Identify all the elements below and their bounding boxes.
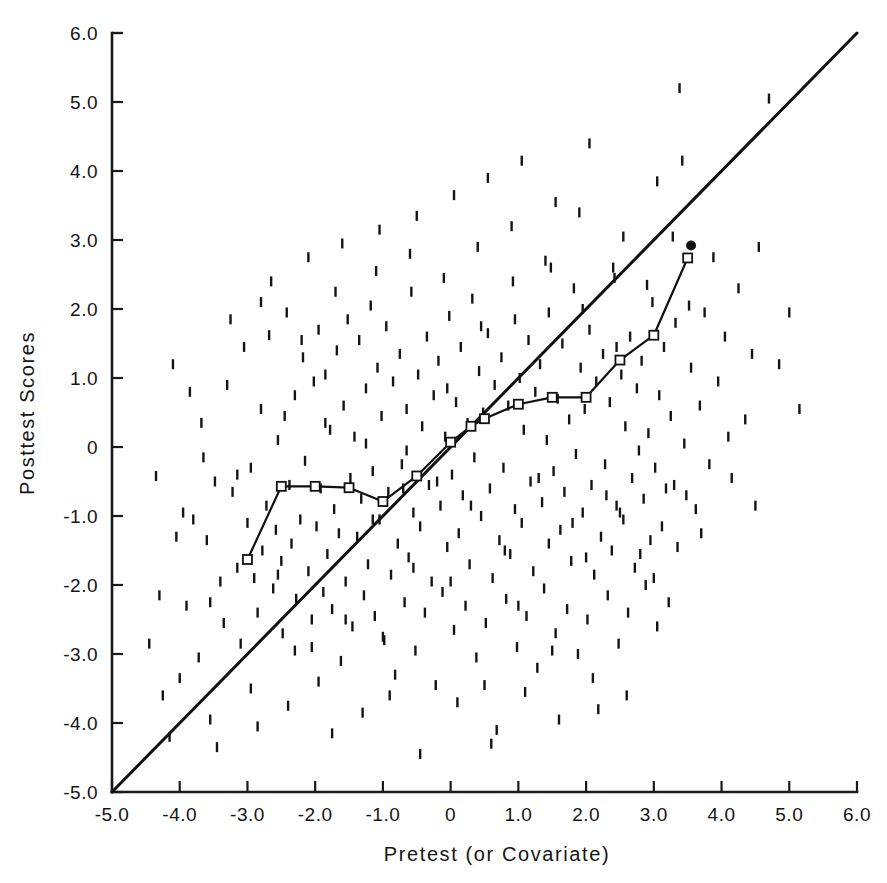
y-tick-label: 3.0 bbox=[70, 230, 98, 251]
x-tick-label: -2.0 bbox=[298, 804, 333, 825]
y-tick-label: 2.0 bbox=[70, 299, 98, 320]
binned-mean-marker bbox=[683, 253, 692, 262]
y-tick-label: -4.0 bbox=[63, 713, 98, 734]
binned-mean-marker bbox=[311, 482, 320, 491]
binned-mean-marker bbox=[345, 483, 354, 492]
y-tick-label: -3.0 bbox=[63, 644, 98, 665]
y-tick-label: 6.0 bbox=[70, 23, 98, 44]
x-tick-label: -4.0 bbox=[162, 804, 197, 825]
binned-mean-marker bbox=[480, 414, 489, 423]
binned-mean-marker bbox=[378, 497, 387, 506]
binned-mean-marker bbox=[649, 331, 658, 340]
x-tick-label: 0 bbox=[445, 804, 456, 825]
identity-reference-line bbox=[112, 33, 857, 792]
y-tick-label: -2.0 bbox=[63, 575, 98, 596]
y-axis-title: Posttest Scores bbox=[16, 331, 38, 495]
x-tick-label: -1.0 bbox=[366, 804, 401, 825]
binned-mean-marker bbox=[548, 393, 557, 402]
binned-means-line-layer bbox=[243, 241, 696, 564]
x-tick-label: 1.0 bbox=[504, 804, 532, 825]
x-tick-label: -3.0 bbox=[230, 804, 265, 825]
y-tick-label: 5.0 bbox=[70, 92, 98, 113]
binned-mean-marker bbox=[514, 400, 523, 409]
binned-mean-marker bbox=[243, 555, 252, 564]
y-tick-label: 4.0 bbox=[70, 161, 98, 182]
binned-mean-marker bbox=[277, 482, 286, 491]
x-tick-label: -5.0 bbox=[95, 804, 130, 825]
y-tick-label: 1.0 bbox=[70, 368, 98, 389]
scatter-plot-figure: 6.05.04.03.02.01.00-1.0-2.0-3.0-4.0-5.0-… bbox=[0, 0, 887, 883]
y-tick-label: 0 bbox=[87, 437, 98, 458]
binned-means-path bbox=[247, 258, 687, 560]
x-tick-label: 2.0 bbox=[572, 804, 600, 825]
plot-canvas: 6.05.04.03.02.01.00-1.0-2.0-3.0-4.0-5.0-… bbox=[0, 0, 887, 883]
y-tick-label: -1.0 bbox=[63, 506, 98, 527]
binned-mean-marker bbox=[615, 356, 624, 365]
end-point-dot bbox=[686, 241, 696, 251]
x-tick-label: 6.0 bbox=[843, 804, 871, 825]
x-tick-label: 5.0 bbox=[775, 804, 803, 825]
binned-mean-marker bbox=[446, 438, 455, 447]
x-axis-title: Pretest (or Covariate) bbox=[384, 843, 610, 865]
x-tick-label: 4.0 bbox=[708, 804, 736, 825]
identity-line-layer bbox=[112, 33, 857, 792]
binned-mean-marker bbox=[466, 422, 475, 431]
x-tick-label: 3.0 bbox=[640, 804, 668, 825]
binned-mean-marker bbox=[582, 393, 591, 402]
y-tick-label: -5.0 bbox=[63, 782, 98, 803]
binned-mean-marker bbox=[412, 471, 421, 480]
